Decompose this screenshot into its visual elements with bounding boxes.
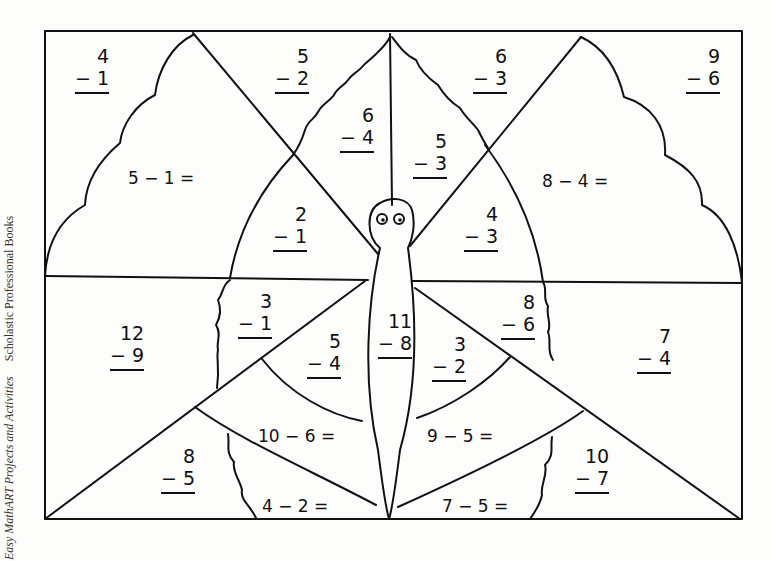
minuend: 12 xyxy=(110,322,144,344)
subtrahend: − 7 xyxy=(575,467,609,494)
side-caption: Easy MathART Projects and Activities Sch… xyxy=(2,216,17,560)
upper-left-wing-scallop xyxy=(45,35,193,276)
subtrahend: − 2 xyxy=(432,355,466,382)
vertical-problem: 8− 5 xyxy=(161,445,195,494)
subtrahend: − 4 xyxy=(637,347,671,374)
vertical-problem: 4− 3 xyxy=(464,203,498,252)
subtrahend: − 4 xyxy=(307,352,341,379)
lower-left-wavy-2 xyxy=(228,434,256,518)
minuend: 3 xyxy=(238,290,272,312)
vertical-problem: 3− 2 xyxy=(432,333,466,382)
minuend: 5 xyxy=(307,330,341,352)
vertical-problem: 6− 4 xyxy=(340,104,374,153)
minuend: 5 xyxy=(275,45,309,67)
subtrahend: − 1 xyxy=(273,225,307,252)
vertical-problem: 4− 1 xyxy=(75,45,109,94)
vertical-problem: 12− 9 xyxy=(110,322,144,371)
minuend: 8 xyxy=(501,291,535,313)
subtrahend: − 6 xyxy=(501,313,535,340)
vertical-problem: 7− 4 xyxy=(637,325,671,374)
horizontal-equation: 7 − 5 = xyxy=(442,496,508,516)
lower-left-diagonal xyxy=(45,281,365,519)
subtrahend: − 1 xyxy=(238,312,272,339)
minuend: 9 xyxy=(686,45,720,67)
lower-right-wavy-1 xyxy=(543,282,553,360)
middle-divider xyxy=(45,276,742,283)
horizontal-equation: 10 − 6 = xyxy=(258,426,335,446)
minuend: 3 xyxy=(432,333,466,355)
subtrahend: − 8 xyxy=(378,332,412,359)
lower-right-wavy-2 xyxy=(530,437,552,519)
vertical-problem: 9− 6 xyxy=(686,45,720,94)
subtrahend: − 6 xyxy=(686,67,720,94)
minuend: 7 xyxy=(637,325,671,347)
subtrahend: − 2 xyxy=(275,67,309,94)
horizontal-equation: 4 − 2 = xyxy=(262,496,328,516)
lower-left-wavy-1 xyxy=(216,280,230,388)
vertical-problem: 5− 4 xyxy=(307,330,341,379)
vertical-problem: 5− 3 xyxy=(413,130,447,179)
vertical-problem: 10− 7 xyxy=(575,445,609,494)
minuend: 6 xyxy=(340,104,374,126)
minuend: 4 xyxy=(464,203,498,225)
horizontal-equation: 8 − 4 = xyxy=(542,171,608,191)
vertical-problem: 2− 1 xyxy=(273,203,307,252)
minuend: 6 xyxy=(473,45,507,67)
minuend: 2 xyxy=(273,203,307,225)
subtrahend: − 5 xyxy=(161,467,195,494)
subtrahend: − 3 xyxy=(413,152,447,179)
minuend: 5 xyxy=(413,130,447,152)
butterfly-line-art xyxy=(0,0,771,561)
horizontal-equation: 9 − 5 = xyxy=(427,426,493,446)
book-title: Easy MathART Projects and Activities xyxy=(2,376,16,560)
antenna xyxy=(390,34,392,205)
subtrahend: − 3 xyxy=(473,67,507,94)
publisher: Scholastic Professional Books xyxy=(2,216,16,361)
minuend: 11 xyxy=(378,310,412,332)
vertical-problem: 6− 3 xyxy=(473,45,507,94)
lower-left-inner-arc-2 xyxy=(195,407,376,505)
subtrahend: − 4 xyxy=(340,126,374,153)
minuend: 4 xyxy=(75,45,109,67)
minuend: 10 xyxy=(575,445,609,467)
subtrahend: − 9 xyxy=(110,344,144,371)
subtrahend: − 3 xyxy=(464,225,498,252)
vertical-problem: 11− 8 xyxy=(378,310,412,359)
horizontal-equation: 5 − 1 = xyxy=(128,168,194,188)
vertical-problem: 5− 2 xyxy=(275,45,309,94)
subtrahend: − 1 xyxy=(75,67,109,94)
minuend: 8 xyxy=(161,445,195,467)
vertical-problem: 3− 1 xyxy=(238,290,272,339)
vertical-problem: 8− 6 xyxy=(501,291,535,340)
